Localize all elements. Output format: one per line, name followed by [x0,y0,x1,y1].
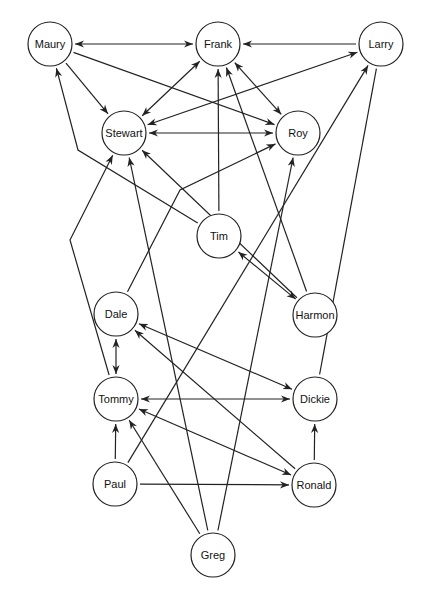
node-label: Tommy [98,393,134,405]
edge-tim-frank [218,69,219,211]
node-dickie: Dickie [293,377,337,421]
node-maury: Maury [28,22,72,66]
edge-tim-harmon [238,252,295,299]
edge-frank-stewart [142,61,200,116]
edge-tommy-ronald [139,409,291,475]
node-label: Ronald [297,479,332,491]
network-diagram: MauryFrankLarryStewartRoyTimHarmonDaleTo… [0,0,431,601]
nodes-layer: MauryFrankLarryStewartRoyTimHarmonDaleTo… [28,22,403,577]
edge-greg-tommy [129,420,200,534]
node-label: Maury [35,38,66,50]
node-label: Dale [105,308,128,320]
node-dale: Dale [94,292,138,336]
node-label: Tim [210,230,228,242]
node-roy: Roy [276,111,320,155]
node-harmon: Harmon [293,293,337,337]
node-greg: Greg [191,533,235,577]
edge-maury-roy [74,52,275,124]
edge-dale-dickie [139,324,292,389]
edge-frank-roy [235,63,282,115]
node-paul: Paul [93,462,137,506]
edge-maury-stewart [66,63,108,114]
node-tommy: Tommy [94,377,138,421]
edge-harmon-frank [226,68,306,292]
diagram-canvas: MauryFrankLarryStewartRoyTimHarmonDaleTo… [0,0,431,601]
edge-stewart-larry [148,52,358,125]
edge-dale-roy [128,144,276,292]
edge-greg-roy [218,158,293,531]
node-tim: Tim [197,214,241,258]
node-larry: Larry [359,22,403,66]
node-label: Frank [204,38,233,50]
node-ronald: Ronald [292,463,336,507]
edge-tommy-stewart [70,155,113,375]
edge-paul-ronald [140,484,289,485]
node-label: Roy [288,127,308,139]
node-label: Dickie [300,393,330,405]
node-stewart: Stewart [102,111,146,155]
node-label: Larry [368,38,394,50]
node-label: Stewart [105,127,142,139]
edges-layer [56,44,376,534]
node-label: Greg [201,549,225,561]
node-label: Paul [104,478,126,490]
node-frank: Frank [196,22,240,66]
node-label: Harmon [295,309,334,321]
